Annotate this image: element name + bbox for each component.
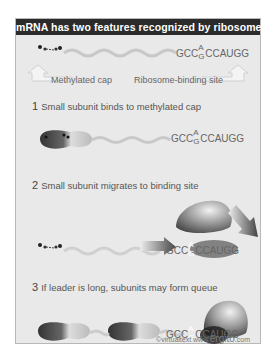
step-1: 1Small subunit binds to methylated cap: [32, 100, 201, 112]
large-subunit-icon: [176, 201, 232, 233]
methyl-cap-icon: [38, 243, 62, 249]
sequence-2: GCCAGCCAUGG: [166, 245, 239, 256]
step-2: 2Small subunit migrates to binding site: [32, 179, 198, 191]
ribosome-binding-site-label: Ribosome-binding site: [134, 75, 223, 85]
methyl-cap-icon: [38, 45, 62, 51]
small-subunit-icon: [108, 322, 160, 340]
sequence-0: GCCAGCCAUGG: [176, 48, 249, 59]
methylated-cap-label: Methylated cap: [51, 75, 112, 85]
diagram-title: mRNA has two features recognized by ribo…: [16, 19, 260, 35]
sequence-1: GCCAGCCAUGG: [171, 133, 244, 144]
small-subunit-icon: [38, 322, 90, 340]
small-subunit-icon: [36, 127, 186, 151]
credit: ©virtualtext www.ergito.com: [156, 333, 250, 344]
step-3: 3If leader is long, subunits may form qu…: [32, 281, 218, 293]
arrow-down-icon: [228, 205, 258, 237]
diagram-panel: mRNA has two features recognized by ribo…: [15, 18, 261, 344]
migration-diagram: [36, 197, 261, 267]
